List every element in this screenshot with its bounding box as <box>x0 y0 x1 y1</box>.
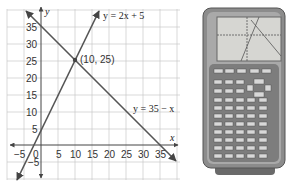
svg-text:25: 25 <box>121 149 133 160</box>
line-y-equals-35-minus-x <box>26 11 176 161</box>
intersection-label: (10, 25) <box>80 54 114 65</box>
svg-text:25: 25 <box>26 56 38 67</box>
svg-text:20: 20 <box>104 149 116 160</box>
coordinate-graph: y x y = 2x + 5 y = 35 − x (10, 25) 35 30… <box>0 0 190 187</box>
intersection-point <box>73 58 77 62</box>
svg-text:5: 5 <box>56 149 62 160</box>
svg-text:10: 10 <box>26 107 38 118</box>
y-axis-label: y <box>44 6 50 17</box>
svg-text:5: 5 <box>32 124 38 135</box>
svg-text:30: 30 <box>26 39 38 50</box>
x-axis-label: x <box>169 132 175 143</box>
line2-equation: y = 35 − x <box>133 103 174 114</box>
calculator-screen <box>217 17 281 61</box>
svg-text:15: 15 <box>26 90 38 101</box>
svg-text:35: 35 <box>26 22 38 33</box>
svg-text:35: 35 <box>155 149 167 160</box>
svg-text:20: 20 <box>26 73 38 84</box>
svg-text:15: 15 <box>87 149 99 160</box>
svg-text:30: 30 <box>138 149 150 160</box>
svg-text:10: 10 <box>70 149 82 160</box>
svg-text:0: 0 <box>33 149 39 160</box>
graphing-calculator <box>195 0 295 187</box>
svg-text:−5: −5 <box>14 149 26 160</box>
x-tick-labels: −5 0 5 10 15 20 25 30 35 <box>14 149 167 160</box>
line1-equation: y = 2x + 5 <box>103 10 144 21</box>
